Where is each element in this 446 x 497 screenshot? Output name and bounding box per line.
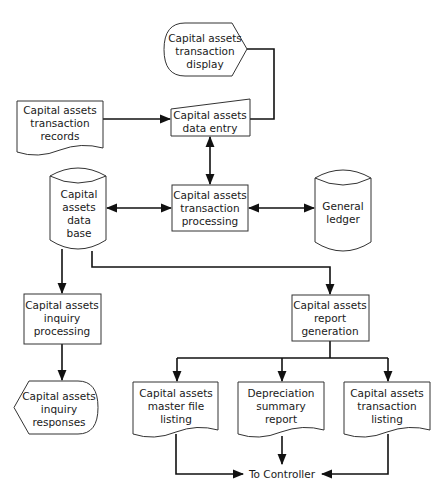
node-label-line: Capital assets bbox=[350, 387, 424, 399]
node-to-controller: To Controller bbox=[248, 468, 316, 480]
node-label-line: Capital assets bbox=[173, 189, 247, 201]
node-label-line: report bbox=[314, 312, 346, 324]
node-label-line: Depreciation bbox=[248, 387, 315, 399]
node-label-line: transaction bbox=[30, 117, 89, 129]
node-label-line: transaction bbox=[175, 45, 234, 57]
node-label-line: General bbox=[322, 200, 363, 212]
edge-display-to-data-entry bbox=[247, 49, 274, 119]
node-label-line: Capital assets bbox=[22, 390, 96, 402]
node-label-line: Capital assets bbox=[173, 109, 247, 121]
node-label-line: data bbox=[67, 214, 91, 226]
node-label-line: transaction bbox=[180, 202, 239, 214]
node-database: Capital assets data base bbox=[50, 168, 106, 249]
node-label-line: responses bbox=[32, 416, 85, 428]
node-label-line: inquiry bbox=[44, 312, 80, 324]
node-transaction-records: Capital assets transaction records bbox=[17, 101, 103, 155]
node-label-line: processing bbox=[182, 215, 239, 227]
node-label-line: Capital assets bbox=[25, 299, 99, 311]
node-label-line: report bbox=[265, 413, 297, 425]
node-label-line: display bbox=[186, 58, 223, 70]
node-label-line: listing bbox=[371, 413, 403, 425]
edge-master-to-controller bbox=[176, 434, 243, 474]
node-label-line: data entry bbox=[183, 122, 238, 134]
node-label-line: Capital assets bbox=[168, 32, 242, 44]
node-transaction-display: Capital assets transaction display bbox=[164, 23, 247, 76]
node-data-entry: Capital assets data entry bbox=[171, 99, 250, 136]
edge-database-to-report bbox=[92, 251, 330, 294]
node-inquiry-processing: Capital assets inquiry processing bbox=[24, 294, 101, 344]
node-transaction-listing: Capital assets transaction listing bbox=[344, 382, 430, 437]
node-depreciation-summary: Depreciation summary report bbox=[238, 382, 324, 437]
node-label-line: summary bbox=[256, 400, 306, 412]
node-label-line: master file bbox=[148, 400, 204, 412]
capital-assets-flowchart: Capital assets transaction display Capit… bbox=[0, 0, 446, 497]
node-master-file-listing: Capital assets master file listing bbox=[133, 382, 218, 437]
node-label-line: inquiry bbox=[41, 403, 77, 415]
node-label-line: transaction bbox=[357, 400, 416, 412]
node-general-ledger: General ledger bbox=[315, 170, 371, 251]
node-label-line: Capital bbox=[61, 188, 98, 200]
node-label-line: assets bbox=[62, 201, 95, 213]
node-label-line: Capital assets bbox=[139, 387, 213, 399]
node-label-line: Capital assets bbox=[23, 104, 97, 116]
node-label-line: processing bbox=[34, 325, 91, 337]
node-label-line: base bbox=[66, 227, 91, 239]
edge-listing-to-controller bbox=[322, 434, 388, 474]
node-report-generation: Capital assets report generation bbox=[292, 295, 369, 341]
node-transaction-processing: Capital assets transaction processing bbox=[172, 185, 248, 231]
to-controller-label: To Controller bbox=[248, 468, 316, 480]
node-label-line: records bbox=[40, 130, 79, 142]
node-inquiry-responses: Capital assets inquiry responses bbox=[14, 381, 98, 434]
node-label-line: listing bbox=[160, 413, 192, 425]
node-label-line: ledger bbox=[326, 213, 360, 225]
node-label-line: generation bbox=[301, 325, 358, 337]
node-label-line: Capital assets bbox=[293, 299, 367, 311]
